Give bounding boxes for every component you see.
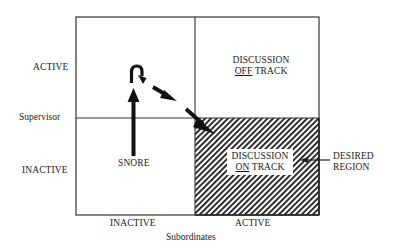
callout-line1: DESIRED	[333, 151, 374, 162]
on-underlined: ON	[236, 162, 250, 172]
y-tick-active: ACTIVE	[33, 62, 68, 72]
quadrant-off-line2: OFF TRACK	[226, 66, 296, 77]
callout-line2: REGION	[333, 162, 374, 173]
up-arrow-icon	[128, 88, 140, 156]
quadrant-on-line1: DISCUSSION	[224, 151, 296, 162]
quadrant-off-line1: DISCUSSION	[226, 55, 296, 66]
y-tick-inactive: INACTIVE	[22, 165, 68, 175]
on-rest: TRACK	[249, 162, 284, 172]
off-rest: TRACK	[252, 66, 287, 76]
off-underlined: OFF	[235, 66, 253, 76]
y-axis-title: Supervisor	[19, 112, 60, 122]
x-axis-title: Subordinates	[166, 232, 216, 242]
x-tick-active: ACTIVE	[235, 218, 270, 228]
quadrant-discussion-on-track: DISCUSSION ON TRACK	[224, 151, 296, 173]
quadrant-diagram-graphic	[0, 0, 398, 251]
diagonal-arrow-1-icon	[153, 87, 177, 101]
hook-arrow-icon	[132, 66, 147, 84]
quadrant-discussion-off-track: DISCUSSION OFF TRACK	[226, 55, 296, 77]
quadrant-on-line2: ON TRACK	[224, 162, 296, 173]
quadrant-snore: SNORE	[118, 158, 150, 168]
x-tick-inactive: INACTIVE	[110, 218, 156, 228]
desired-region-callout: DESIRED REGION	[333, 151, 374, 173]
